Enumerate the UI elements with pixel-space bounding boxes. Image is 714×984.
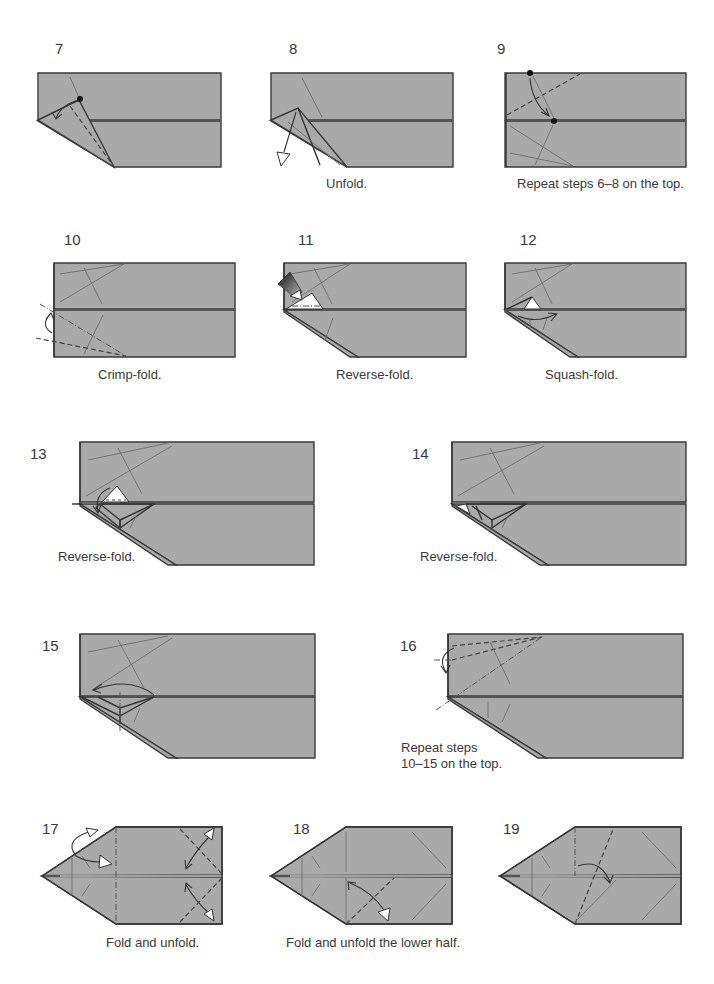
step-19-diagram: [0, 0, 714, 984]
